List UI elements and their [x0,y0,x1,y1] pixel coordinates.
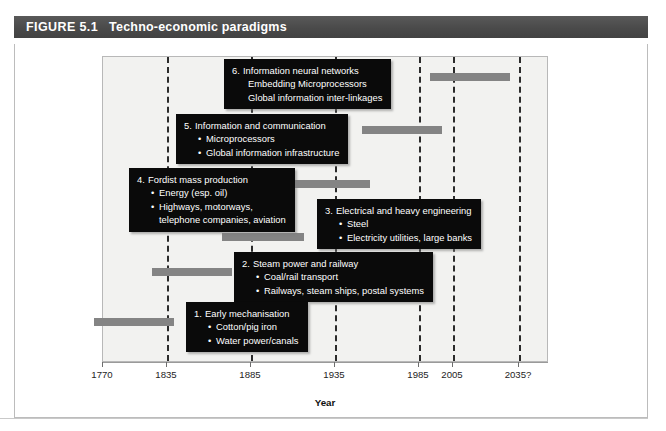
wave-4-item-1: •Energy (esp. oil) [137,186,286,199]
wave-3-number: 3. [325,204,336,217]
wave-5-item-1: •Microprocessors [184,132,339,145]
bullet-icon: • [198,132,206,145]
wave-2-title-line: 2.Steam power and railway [242,257,424,270]
wave-bar-6 [430,73,510,81]
bullet-icon: • [151,186,159,199]
wave-6-number: 6. [232,64,243,77]
x-tick-1985 [418,362,419,367]
figure-title: Techno-economic paradigms [109,20,287,34]
x-tick-label-1985: 1985 [407,369,428,380]
wave-box-2: 2.Steam power and railway •Coal/rail tra… [234,252,433,302]
bullet-icon: • [339,231,347,244]
bullet-icon: • [256,270,264,283]
wave-2-title: Steam power and railway [253,258,358,269]
wave-box-1: 1.Early mechanisation •Cotton/pig iron •… [186,302,308,352]
wave-3-item-2-text: Electricity utilities, large banks [347,232,472,243]
wave-1-item-2: •Water power/canals [194,334,299,347]
wave-2-item-1: •Coal/rail transport [242,270,424,283]
figure-title-bar: FIGURE 5.1 Techno-economic paradigms [14,16,648,38]
wave-3-item-2: •Electricity utilities, large banks [325,231,472,244]
page-bottom-rule [0,418,648,419]
bullet-icon: • [256,284,264,297]
wave-bar-3 [222,233,304,241]
wave-box-5: 5.Information and communication •Micropr… [176,114,348,164]
wave-5-item-2-text: Global information infrastructure [206,147,339,158]
x-tick-2035 [518,362,519,367]
wave-4-item-2-continued: telephone companies, aviation [137,213,286,226]
wave-4-item-2-text: Highways, motorways, [159,201,253,212]
wave-1-item-1: •Cotton/pig iron [194,320,299,333]
wave-1-item-2-text: Water power/canals [216,335,299,346]
wave-1-item-1-text: Cotton/pig iron [216,321,277,332]
wave-3-title-line: 3.Electrical and heavy engineering [325,204,472,217]
wave-4-item-1-text: Energy (esp. oil) [159,187,227,198]
x-tick-label-2005: 2005 [441,369,462,380]
wave-5-number: 5. [184,119,195,132]
x-axis-line [102,362,548,363]
wave-2-number: 2. [242,257,253,270]
wave-5-title: Information and communication [195,120,326,131]
wave-1-title: Early mechanisation [205,308,289,319]
wave-6-title: Information neural networks [243,65,359,76]
figure-number: FIGURE 5.1 [26,20,98,34]
x-tick-1885 [250,362,251,367]
wave-bar-1 [94,318,174,326]
x-tick-label-1770: 1770 [91,369,112,380]
wave-2-item-2-text: Railways, steam ships, postal systems [264,285,424,296]
wave-6-line-1: Embedding Microprocessors [232,77,382,90]
x-tick-label-1835: 1835 [155,369,176,380]
wave-4-title-line: 4.Fordist mass production [137,173,286,186]
wave-1-title-line: 1.Early mechanisation [194,307,299,320]
x-tick-label-2035: 2035? [505,369,532,380]
x-tick-label-1935: 1935 [323,369,344,380]
bullet-icon: • [198,146,206,159]
wave-bar-2 [152,268,232,276]
bullet-icon: • [208,320,216,333]
x-tick-2005 [452,362,453,367]
wave-3-title: Electrical and heavy engineering [336,205,472,216]
x-tick-1935 [334,362,335,367]
wave-box-4: 4.Fordist mass production •Energy (esp. … [129,168,295,232]
wave-box-3: 3.Electrical and heavy engineering •Stee… [317,199,481,249]
x-tick-1835 [166,362,167,367]
wave-3-item-1-text: Steel [347,218,368,229]
wave-2-item-1-text: Coal/rail transport [264,271,338,282]
gridline-2035 [519,57,521,361]
wave-1-number: 1. [194,307,205,320]
wave-6-title-line: 6.Information neural networks [232,64,382,77]
bullet-icon: • [151,200,159,213]
bullet-icon: • [339,217,347,230]
wave-2-item-2: •Railways, steam ships, postal systems [242,284,424,297]
wave-box-6: 6.Information neural networks Embedding … [224,59,391,109]
x-axis-title-wrapper: Year [102,392,548,410]
wave-4-title: Fordist mass production [148,174,248,185]
x-axis-title: Year [315,397,336,408]
wave-bar-5 [362,126,442,134]
wave-4-item-2: •Highways, motorways, [137,200,286,213]
wave-3-item-1: •Steel [325,217,472,230]
x-tick-1770 [102,362,103,367]
wave-bar-4 [290,180,370,188]
wave-5-item-1-text: Microprocessors [206,133,275,144]
x-tick-label-1885: 1885 [239,369,260,380]
wave-4-number: 4. [137,173,148,186]
wave-6-line-2: Global information inter-linkages [232,91,382,104]
wave-5-item-2: •Global information infrastructure [184,146,339,159]
bullet-icon: • [208,334,216,347]
wave-5-title-line: 5.Information and communication [184,119,339,132]
